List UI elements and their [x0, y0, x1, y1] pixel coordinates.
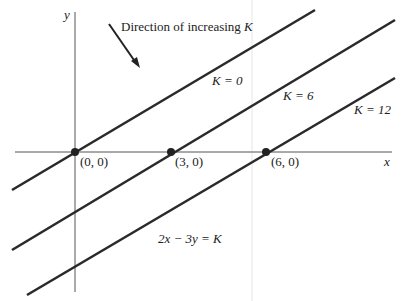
line-k6 [12, 20, 395, 250]
k12-label: K = 12 [353, 102, 391, 117]
k6-label: K = 6 [282, 88, 314, 103]
diagram: y x Direction of increasing K K = 0 K = … [0, 0, 407, 301]
x-axis-label: x [383, 154, 390, 169]
point-0-0 [71, 148, 79, 156]
k0-label: K = 0 [211, 73, 243, 88]
y-axis-label: y [62, 7, 70, 22]
point-3-0-label: (3, 0) [175, 154, 203, 169]
point-6-0 [262, 148, 270, 156]
line-k12 [27, 78, 395, 295]
equation-label: 2x − 3y = K [158, 231, 223, 246]
point-3-0 [167, 148, 175, 156]
point-6-0-label: (6, 0) [271, 154, 299, 169]
point-0-0-label: (0, 0) [80, 154, 108, 169]
direction-label: Direction of increasing K [121, 19, 254, 34]
line-k0 [12, 10, 315, 190]
isoprofit-lines-diagram: y x Direction of increasing K K = 0 K = … [0, 0, 407, 301]
